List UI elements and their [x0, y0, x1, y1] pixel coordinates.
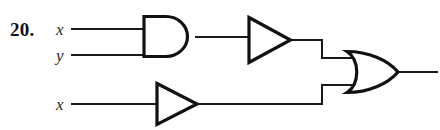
label-layer: 20. x y x: [0, 0, 440, 130]
problem-number-label: 20.: [10, 20, 35, 39]
input-label-x-2: x: [56, 96, 64, 113]
input-label-x-1: x: [56, 21, 64, 38]
input-label-y: y: [56, 47, 64, 64]
circuit-diagram-figure: 20. x y x: [0, 0, 440, 130]
